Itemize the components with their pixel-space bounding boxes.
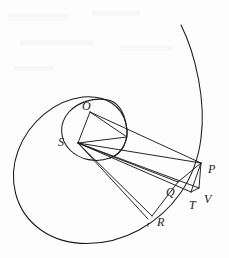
segment-s-r	[78, 143, 152, 216]
point-label-S: S	[58, 136, 64, 148]
segment-s-q	[78, 143, 178, 182]
geometric-figure: OSPVTQRr	[0, 0, 229, 258]
point-label-V: V	[204, 193, 211, 205]
point-label-O: O	[82, 100, 91, 112]
segment-s-a	[78, 137, 127, 143]
point-label-P: P	[208, 163, 215, 175]
point-label-Q: Q	[166, 186, 175, 198]
inner-circle-curve	[62, 99, 127, 160]
point-label-T: T	[189, 199, 196, 211]
segment-s-o	[78, 112, 90, 143]
figure-canvas	[0, 0, 229, 258]
point-label-R: R	[157, 216, 164, 228]
segment-a-o	[90, 112, 127, 137]
segment-s-r	[78, 143, 148, 219]
outer-spiral-curve	[13, 25, 202, 244]
point-label-r: r	[147, 221, 150, 229]
